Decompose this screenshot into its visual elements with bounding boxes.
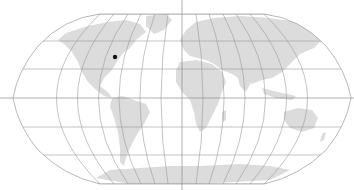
- land-australia: [284, 108, 318, 132]
- land-new-zealand: [320, 132, 326, 142]
- land-madagascar: [222, 110, 226, 122]
- location-marker[interactable]: [113, 55, 117, 59]
- world-map: [0, 0, 354, 190]
- land-greenland: [146, 14, 172, 34]
- land-antarctica: [96, 164, 290, 184]
- land-africa: [176, 60, 226, 132]
- land-south-america: [110, 96, 150, 166]
